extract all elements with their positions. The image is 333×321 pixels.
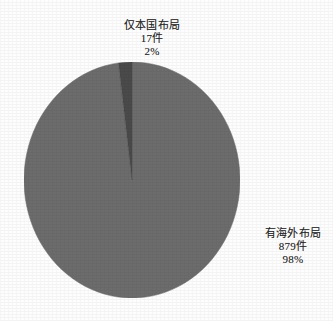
pie-label-major-count: 879件	[252, 240, 333, 253]
pie-chart-figure: 仅本国布局 17件 2% 有海外布局 879件 98%	[0, 0, 333, 321]
pie-label-minor-name: 仅本国布局	[100, 19, 204, 32]
pie-label-major: 有海外布局 879件 98%	[252, 227, 333, 266]
pie-label-minor-count: 17件	[100, 32, 204, 45]
pie-label-major-name: 有海外布局	[252, 227, 333, 240]
pie-chart-graphic	[24, 62, 240, 298]
pie-label-minor: 仅本国布局 17件 2%	[100, 19, 204, 58]
pie-svg	[24, 62, 240, 298]
pie-label-minor-percent: 2%	[100, 45, 204, 58]
pie-label-major-percent: 98%	[252, 253, 333, 266]
